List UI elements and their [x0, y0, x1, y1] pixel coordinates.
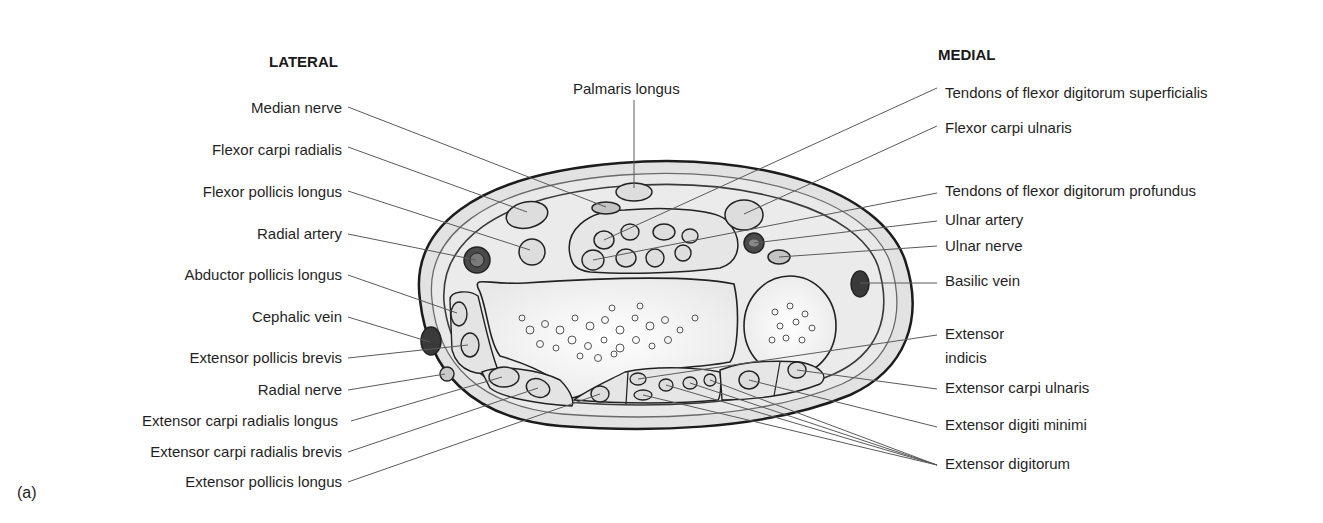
label-flexor-carpi-ulnaris: Flexor carpi ulnaris [945, 119, 1072, 137]
label-median-nerve: Median nerve [251, 99, 342, 117]
median-nerve [592, 202, 620, 214]
label-extensor-indicis-line2: indicis [945, 349, 987, 367]
label-extensor-digitorum: Extensor digitorum [945, 455, 1070, 473]
label-basilic-vein: Basilic vein [945, 272, 1020, 290]
cephalic-vein [421, 327, 441, 355]
extensor-carpi-radialis-longus [489, 367, 519, 387]
label-ulnar-artery: Ulnar artery [945, 211, 1023, 229]
label-abductor-pollicis-longus: Abductor pollicis longus [184, 266, 342, 284]
label-extensor-pollicis-longus: Extensor pollicis longus [185, 473, 342, 491]
label-ulnar-nerve: Ulnar nerve [945, 237, 1023, 255]
label-palmaris-longus: Palmaris longus [573, 80, 680, 98]
label-flexor-pollicis-longus: Flexor pollicis longus [203, 183, 342, 201]
abductor-pollicis-longus [451, 302, 467, 326]
flexor-carpi-ulnaris [725, 200, 763, 230]
lateral-heading: LATERAL [269, 53, 338, 70]
label-extensor-carpi-radialis-brevis: Extensor carpi radialis brevis [150, 443, 342, 461]
panel-label: (a) [17, 484, 37, 502]
basilic-vein [851, 271, 869, 297]
label-tendons-fdp: Tendons of flexor digitorum profundus [945, 182, 1196, 200]
label-radial-artery: Radial artery [257, 225, 342, 243]
label-extensor-indicis-line1: Extensor [945, 325, 1004, 343]
label-radial-nerve: Radial nerve [258, 381, 342, 399]
label-extensor-carpi-radialis-longus: Extensor carpi radialis longus [142, 412, 338, 430]
label-cephalic-vein: Cephalic vein [252, 308, 342, 326]
label-extensor-digiti-minimi: Extensor digiti minimi [945, 416, 1087, 434]
label-tendons-fds: Tendons of flexor digitorum superficiali… [945, 84, 1208, 102]
medial-heading: MEDIAL [938, 46, 996, 63]
flexor-pollicis-longus [519, 239, 545, 265]
label-flexor-carpi-radialis: Flexor carpi radialis [212, 141, 342, 159]
label-extensor-pollicis-brevis: Extensor pollicis brevis [189, 349, 342, 367]
label-extensor-carpi-ulnaris: Extensor carpi ulnaris [945, 379, 1089, 397]
